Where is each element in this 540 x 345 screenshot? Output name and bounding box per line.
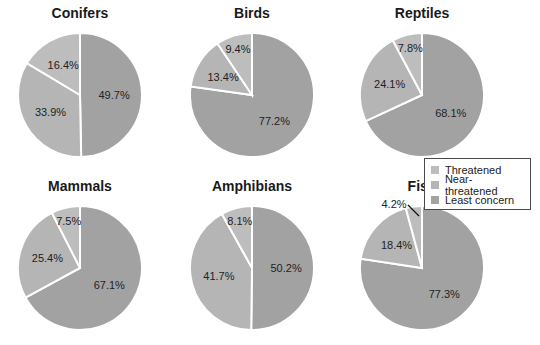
slice-label: 50.2% (270, 262, 301, 274)
pie-chart-reptiles: Reptiles68.1%24.1%7.8% (347, 5, 497, 165)
slice-label: 18.4% (381, 239, 412, 251)
slice-label: 4.2% (381, 198, 406, 210)
legend-item-near-threatened: Near-threatened (431, 177, 524, 192)
threatened-swatch-icon (431, 166, 439, 174)
slice-label: 7.5% (56, 215, 81, 227)
least-concern-swatch-icon (431, 196, 439, 204)
pie-chart-mammals: Mammals67.1%25.4%7.5% (5, 178, 155, 338)
slice-label: 33.9% (35, 106, 66, 118)
slice-label: 68.1% (435, 107, 466, 119)
pie-title: Conifers (5, 5, 155, 21)
slice-label: 9.4% (225, 43, 250, 55)
legend-label: Least concern (445, 194, 514, 206)
legend: Threatened Near-threatened Least concern (424, 158, 531, 210)
pie-title: Reptiles (347, 5, 497, 21)
slice-label: 77.2% (259, 115, 290, 127)
slice-label: 41.7% (203, 270, 234, 282)
legend-item-least-concern: Least concern (431, 192, 524, 207)
slice-label: 13.4% (207, 71, 238, 83)
pie-chart-birds: Birds77.2%13.4%9.4% (177, 5, 327, 165)
near-threatened-swatch-icon (431, 181, 439, 189)
slice-label: 25.4% (32, 252, 63, 264)
slice-label: 77.3% (429, 288, 460, 300)
slice-label: 24.1% (374, 78, 405, 90)
pie-chart-amphibians: Amphibians50.2%41.7%8.1% (177, 178, 327, 338)
pie-title: Mammals (5, 178, 155, 194)
pie-chart-conifers: Conifers49.7%33.9%16.4% (5, 5, 155, 165)
slice-label: 67.1% (94, 279, 125, 291)
slice-label: 16.4% (48, 59, 79, 71)
slice-label: 49.7% (98, 89, 129, 101)
pie-title: Birds (177, 5, 327, 21)
slice-label: 7.8% (398, 42, 423, 54)
slice-label: 8.1% (227, 215, 252, 227)
pie-title: Amphibians (177, 178, 327, 194)
